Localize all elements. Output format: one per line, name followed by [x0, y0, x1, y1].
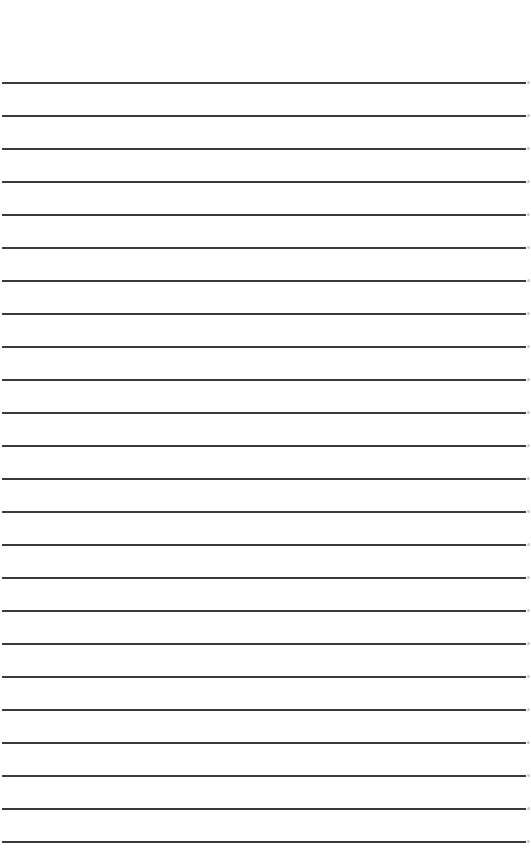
ruled-line: [2, 379, 526, 381]
ruled-line: [2, 742, 526, 744]
ruled-line: [2, 280, 526, 282]
ruled-line: [2, 643, 526, 645]
ruled-line: [2, 214, 526, 216]
ruled-line: [2, 346, 526, 348]
ruled-line: [2, 181, 526, 183]
ruled-line: [2, 577, 526, 579]
ruled-line: [2, 313, 526, 315]
ruled-line: [2, 676, 526, 678]
ruled-line: [2, 115, 526, 117]
ruled-line: [2, 148, 526, 150]
ruled-line: [2, 247, 526, 249]
ruled-line: [2, 544, 526, 546]
lined-paper-sheet: [0, 0, 531, 863]
ruled-line: [2, 709, 526, 711]
ruled-line: [2, 841, 526, 843]
ruled-line: [2, 412, 526, 414]
ruled-line: [2, 610, 526, 612]
ruled-line: [2, 808, 526, 810]
ruled-line: [2, 478, 526, 480]
ruled-line: [2, 511, 526, 513]
ruled-line: [2, 775, 526, 777]
ruled-line: [2, 445, 526, 447]
ruled-line: [2, 82, 526, 84]
